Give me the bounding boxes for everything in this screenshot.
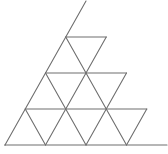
triangle-diagram	[0, 0, 168, 154]
diagonal-grid-line	[46, 37, 107, 145]
diagonal-grid-line	[66, 37, 127, 145]
diagonal-grid-line	[25, 109, 45, 145]
diagonal-grid-line	[127, 109, 147, 145]
triangle-grid-graphic	[0, 0, 168, 154]
